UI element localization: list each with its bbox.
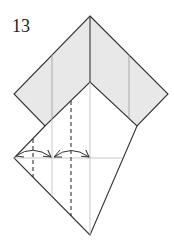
origami-diagram: [0, 0, 174, 244]
